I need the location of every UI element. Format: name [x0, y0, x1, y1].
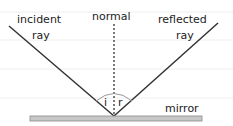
incident-ray-label-line2: ray [32, 29, 50, 42]
reflected-ray-label-line2: ray [176, 29, 194, 42]
reflection-diagram: incident ray normal reflected ray i r mi… [0, 0, 233, 126]
angle-i-label: i [104, 96, 107, 109]
mirror-label: mirror [165, 102, 199, 115]
angle-r-label: r [118, 96, 123, 109]
normal-label: normal [92, 10, 131, 23]
incident-ray-label-line1: incident [17, 13, 62, 26]
reflected-ray-label-line1: reflected [158, 13, 207, 26]
mirror [30, 116, 202, 121]
